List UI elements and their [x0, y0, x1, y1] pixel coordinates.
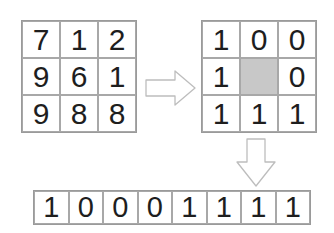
binary-cell: 1 [34, 191, 69, 224]
binary-cell: 1 [207, 191, 242, 224]
input-cell-center: 6 [60, 58, 98, 95]
binary-cell: 0 [138, 191, 173, 224]
threshold-cell: 0 [278, 21, 316, 58]
input-cell: 1 [60, 21, 98, 58]
threshold-cell: 1 [202, 95, 240, 132]
threshold-cell: 1 [202, 58, 240, 95]
input-cell: 8 [98, 95, 136, 132]
binary-code-strip: 1 0 0 0 1 1 1 1 [33, 190, 311, 225]
threshold-cell: 0 [278, 58, 316, 95]
input-cell: 7 [22, 21, 60, 58]
input-cell: 1 [98, 58, 136, 95]
threshold-cell: 1 [278, 95, 316, 132]
binary-cell: 1 [276, 191, 311, 224]
threshold-cell: 0 [240, 21, 278, 58]
right-arrow-icon [145, 70, 197, 106]
binary-cell: 0 [103, 191, 138, 224]
input-cell: 8 [60, 95, 98, 132]
threshold-cell: 1 [240, 95, 278, 132]
threshold-grid: 1 0 0 1 0 1 1 1 [201, 20, 317, 133]
threshold-cell-center [240, 58, 278, 95]
input-cell: 2 [98, 21, 136, 58]
input-cell: 9 [22, 95, 60, 132]
binary-cell: 1 [172, 191, 207, 224]
threshold-cell: 1 [202, 21, 240, 58]
input-cell: 9 [22, 58, 60, 95]
binary-cell: 1 [241, 191, 276, 224]
down-arrow-icon [236, 138, 276, 188]
input-pixel-grid: 7 1 2 9 6 1 9 8 8 [21, 20, 137, 133]
binary-cell: 0 [69, 191, 104, 224]
